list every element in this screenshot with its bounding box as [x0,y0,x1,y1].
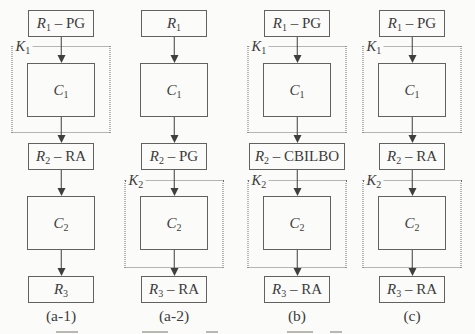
arrow-down-icon [57,117,66,143]
node-r1-label: R1 [167,15,181,32]
var-text: R [272,281,281,297]
sub-text: 3 [396,288,401,299]
var-text: K [252,38,262,54]
sub-text: 2 [45,155,50,166]
arrow-down-icon [170,250,179,276]
var-text: C [404,215,414,231]
arrow-down-icon [293,117,302,143]
node-r1-label: R1 – PG [273,15,321,32]
var-text: R [387,148,396,164]
sub-text: 1 [25,45,30,56]
node-r2-box: R2 – CBILBO [249,143,345,170]
cropped-text-fragment [287,331,313,333]
arrow-down-icon [57,250,66,276]
sub-text: 1 [415,89,420,100]
sub-text: 1 [282,22,287,33]
sub-text: 1 [46,22,51,33]
sub-text: 2 [300,222,305,233]
cropped-text-fragment [330,331,342,333]
rest-text: – RA [401,281,437,297]
var-text: K [367,38,377,54]
sub-text: 1 [397,22,402,33]
var-text: R [54,281,63,297]
arrow-down-icon [170,117,179,143]
var-text: R [149,281,158,297]
arrow-down-icon [293,170,302,196]
rest-text: – PG [402,15,436,31]
var-text: C [404,82,414,98]
arrow-down-icon [293,37,302,63]
sub-text: 2 [138,179,143,190]
node-c1-box: C1 [27,63,95,117]
arrow-head-icon [170,188,178,196]
cropped-text-fragment [206,331,218,333]
var-text: R [273,15,282,31]
arrow-head-icon [293,268,301,276]
sub-text: 2 [64,222,69,233]
var-text: K [367,172,377,188]
node-r3-box: R3 – RA [141,276,207,303]
arrow-head-icon [57,188,65,196]
sub-text: 2 [376,179,381,190]
node-r2-label: R2 – RA [387,148,437,165]
node-c2-label: C2 [404,215,419,232]
sub-text: 3 [63,288,68,299]
node-r3-label: R3 – RA [149,281,199,298]
node-r2-label: R2 – PG [150,148,198,165]
column-c: R1 – PG K1 C1 R2 – RA K2 C2 R3 – RA (c) [355,0,469,334]
node-c1-label: C1 [166,82,181,99]
node-c1-label: C1 [289,82,304,99]
node-r1-label: R1 – PG [37,15,85,32]
cropped-text-fragment [142,331,168,333]
column-caption: (c) [355,307,469,325]
arrow-down-icon [57,37,66,63]
arrow-head-icon [57,135,65,143]
arrow-shaft [60,170,62,189]
rest-text: – PG [287,15,321,31]
arrow-head-icon [408,188,416,196]
node-r2-label: R2 – RA [36,148,86,165]
arrow-down-icon [408,170,417,196]
k1-label: K1 [14,38,33,55]
node-c2-label: C2 [166,215,181,232]
flow-diagram-canvas: R1 – PG K1 C1 R2 – RA C2 R3 (a-1) R1 C1 [0,0,475,334]
arrow-shaft [173,117,175,136]
arrow-shaft [173,250,175,269]
arrow-down-icon [293,250,302,276]
arrow-down-icon [57,170,66,196]
rest-text: – RA [401,148,437,164]
node-c2-box: C2 [27,196,95,250]
node-r1-label: R1 – PG [388,15,436,32]
sub-text: 2 [159,155,164,166]
var-text: K [252,172,262,188]
arrow-head-icon [170,135,178,143]
arrow-down-icon [408,250,417,276]
node-r3-box: R3 [28,276,94,303]
sub-text: 1 [376,45,381,56]
var-text: R [255,148,264,164]
arrow-shaft [60,117,62,136]
var-text: R [167,15,176,31]
node-c2-box: C2 [263,196,331,250]
arrow-head-icon [408,268,416,276]
sub-text: 2 [396,155,401,166]
arrow-head-icon [293,55,301,63]
var-text: C [53,82,63,98]
node-r2-box: R2 – RA [379,143,445,170]
column-a2: R1 C1 R2 – PG K2 C2 R3 – RA (a-2) [117,0,231,334]
node-r2-label: R2 – CBILBO [255,148,339,165]
rest-text: – RA [163,281,199,297]
var-text: R [387,281,396,297]
var-text: R [36,148,45,164]
arrow-shaft [411,170,413,189]
sub-text: 2 [261,179,266,190]
sub-text: 3 [158,288,163,299]
arrow-shaft [296,117,298,136]
k2-label: K2 [127,172,146,189]
arrow-head-icon [170,55,178,63]
rest-text: – PG [51,15,85,31]
rest-text: – RA [50,148,86,164]
arrow-down-icon [408,37,417,63]
arrow-shaft [296,37,298,56]
sub-text: 1 [300,89,305,100]
